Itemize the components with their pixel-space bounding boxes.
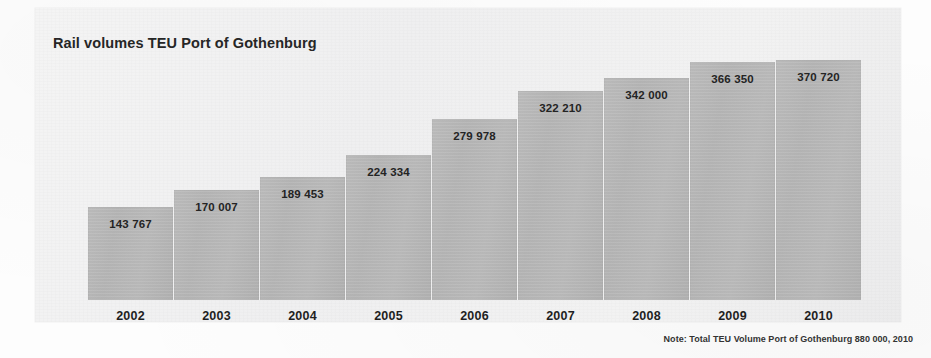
bar-value-label: 342 000 <box>604 89 689 101</box>
bar[interactable]: 370 720 <box>776 60 861 300</box>
bar[interactable]: 189 453 <box>260 177 345 300</box>
bar-group: 189 4532004 <box>260 177 345 300</box>
x-axis-tick-label: 2007 <box>518 309 603 323</box>
bar-group: 224 3342005 <box>346 155 431 300</box>
bar-group: 366 3502009 <box>690 62 775 300</box>
bar-value-label: 370 720 <box>776 71 861 83</box>
bar-group: 370 7202010 <box>776 60 861 300</box>
bar-value-label: 322 210 <box>518 102 603 114</box>
bar-value-label: 224 334 <box>346 166 431 178</box>
x-axis-tick-label: 2002 <box>88 309 173 323</box>
x-axis-tick-label: 2010 <box>776 309 861 323</box>
x-axis-tick-label: 2009 <box>690 309 775 323</box>
bar[interactable]: 170 007 <box>174 190 259 300</box>
bar-group: 322 2102007 <box>518 91 603 300</box>
plot-area: 143 7672002170 0072003189 4532004224 334… <box>35 8 901 322</box>
bar-value-label: 279 978 <box>432 130 517 142</box>
chart-title: Rail volumes TEU Port of Gothenburg <box>53 35 317 51</box>
x-axis-tick-label: 2004 <box>260 309 345 323</box>
bar-value-label: 189 453 <box>260 188 345 200</box>
bar[interactable]: 143 767 <box>88 207 173 300</box>
bar-group: 170 0072003 <box>174 190 259 300</box>
bar-group: 342 0002008 <box>604 78 689 300</box>
bar-value-label: 366 350 <box>690 73 775 85</box>
bar-value-label: 143 767 <box>88 218 173 230</box>
bar-group: 279 9782006 <box>432 119 517 300</box>
bar[interactable]: 366 350 <box>690 62 775 300</box>
chart-footnote: Note: Total TEU Volume Port of Gothenbur… <box>664 334 913 344</box>
bar[interactable]: 224 334 <box>346 155 431 300</box>
scanned-page: Rail volumes TEU Port of Gothenburg 143 … <box>0 0 931 358</box>
x-axis-tick-label: 2003 <box>174 309 259 323</box>
chart-panel: Rail volumes TEU Port of Gothenburg 143 … <box>35 8 901 322</box>
bar[interactable]: 322 210 <box>518 91 603 300</box>
x-axis-tick-label: 2005 <box>346 309 431 323</box>
x-axis-tick-label: 2006 <box>432 309 517 323</box>
bar[interactable]: 279 978 <box>432 119 517 300</box>
bar-group: 143 7672002 <box>88 207 173 300</box>
x-axis-tick-label: 2008 <box>604 309 689 323</box>
bar-value-label: 170 007 <box>174 201 259 213</box>
bar[interactable]: 342 000 <box>604 78 689 300</box>
